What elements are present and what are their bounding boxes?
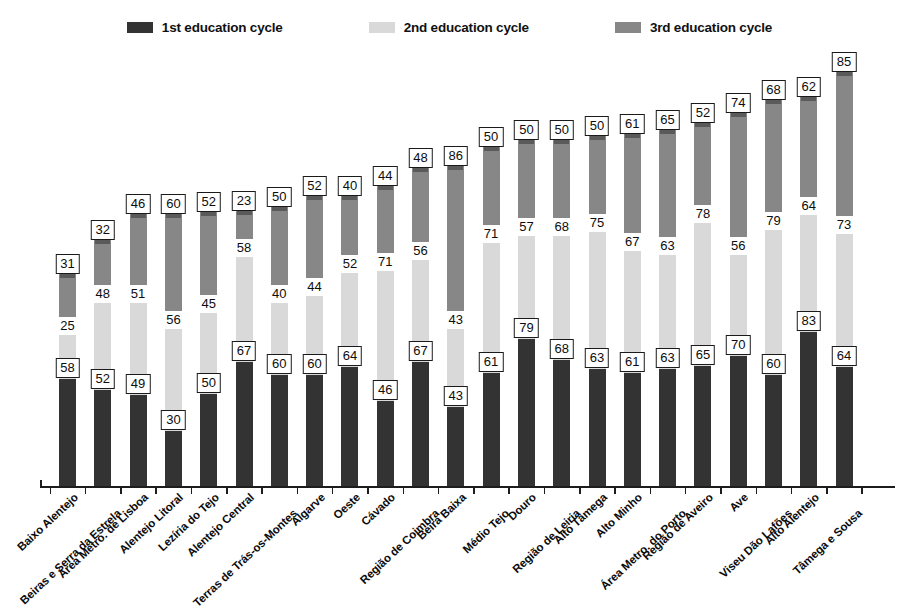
value-label-cycle2: 67 <box>621 233 643 251</box>
x-axis-tick <box>508 488 510 494</box>
bar-group: 495146 <box>130 214 147 487</box>
bar-top-cap <box>60 274 75 278</box>
value-label-cycle2: 44 <box>303 278 325 296</box>
value-label-cycle1: 67 <box>408 341 432 361</box>
bar-group: 504552 <box>200 212 217 487</box>
value-label-cycle1: 63 <box>655 348 679 368</box>
bar-top-cap <box>554 140 569 144</box>
bar-segment-cycle3 <box>730 113 747 251</box>
value-label-cycle3: 52 <box>302 176 326 196</box>
bar-top-cap <box>131 214 146 218</box>
bar-top-cap <box>766 100 781 104</box>
x-axis-tick <box>579 488 581 494</box>
value-label-cycle2: 71 <box>480 225 502 243</box>
bar-segment-cycle1 <box>341 367 358 487</box>
value-label-cycle3: 50 <box>585 116 609 136</box>
x-axis-label: Alentejo Litoral <box>117 491 185 556</box>
bar-group: 686850 <box>553 140 570 487</box>
value-label-cycle3: 85 <box>832 52 856 72</box>
bar-segment-cycle1 <box>800 332 817 487</box>
bar-segment-cycle1 <box>447 407 464 487</box>
value-label-cycle1: 68 <box>549 339 573 359</box>
x-axis-label: Oeste <box>331 491 362 521</box>
x-axis-tick <box>826 488 828 494</box>
value-label-cycle1: 60 <box>302 354 326 374</box>
bar-segment-cycle3 <box>800 97 817 213</box>
value-label-cycle2: 73 <box>833 216 855 234</box>
x-axis-tick <box>191 488 193 494</box>
bar-group: 604452 <box>306 196 323 487</box>
value-label-cycle1: 52 <box>91 369 115 389</box>
bar-top-cap <box>837 72 852 76</box>
value-label-cycle3: 23 <box>232 191 256 211</box>
value-label-cycle1: 61 <box>620 352 644 372</box>
bar-top-cap <box>625 134 640 138</box>
value-label-cycle1: 65 <box>691 345 715 365</box>
value-label-cycle3: 86 <box>444 146 468 166</box>
value-label-cycle3: 48 <box>408 148 432 168</box>
x-axis-tick <box>756 488 758 494</box>
bar-top-cap <box>201 212 216 216</box>
bar-group: 675823 <box>236 211 253 487</box>
value-label-cycle1: 49 <box>126 374 150 394</box>
value-label-cycle3: 50 <box>549 120 573 140</box>
bar-top-cap <box>448 166 463 170</box>
bar-top-cap <box>378 186 393 190</box>
value-label-cycle1: 58 <box>55 358 79 378</box>
bar-segment-cycle3 <box>165 214 182 326</box>
bar-segment-cycle1 <box>518 339 535 487</box>
x-axis-tick <box>403 488 405 494</box>
value-label-cycle2: 52 <box>339 255 361 273</box>
x-axis-category-labels: Baixo AlentejoBeiras e Serra da EstrelaÁ… <box>0 487 899 607</box>
value-label-cycle1: 64 <box>832 346 856 366</box>
value-label-cycle3: 74 <box>726 93 750 113</box>
bar-group: 836462 <box>800 97 817 487</box>
value-label-cycle1: 43 <box>444 386 468 406</box>
value-label-cycle3: 50 <box>479 127 503 147</box>
bar-top-cap <box>695 123 710 127</box>
value-label-cycle1: 60 <box>267 354 291 374</box>
bar-segment-cycle1 <box>165 431 182 487</box>
value-label-cycle2: 56 <box>162 311 184 329</box>
bar-top-cap <box>731 113 746 117</box>
x-axis-tick <box>297 488 299 494</box>
value-label-cycle2: 78 <box>692 205 714 223</box>
bar-segment-cycle2 <box>765 227 782 375</box>
bar-group: 705674 <box>730 113 747 487</box>
value-label-cycle2: 25 <box>56 317 78 335</box>
bar-top-cap <box>413 168 428 172</box>
value-label-cycle1: 61 <box>479 352 503 372</box>
bar-segment-cycle1 <box>412 362 429 487</box>
value-label-cycle2: 45 <box>197 295 219 313</box>
bar-group: 604050 <box>271 207 288 487</box>
x-axis-tick <box>50 488 52 494</box>
x-axis-tick <box>438 488 440 494</box>
bar-group: 647385 <box>836 72 853 487</box>
bar-segment-cycle3 <box>659 130 676 251</box>
value-label-cycle2: 64 <box>798 197 820 215</box>
x-axis-tick <box>791 488 793 494</box>
bar-segment-cycle1 <box>271 375 288 487</box>
value-label-cycle3: 50 <box>267 187 291 207</box>
bar-group: 636365 <box>659 130 676 487</box>
x-axis-label: Região de Aveiro <box>640 491 715 562</box>
bar-segment-cycle1 <box>589 369 606 487</box>
bar-group: 582531 <box>59 274 76 487</box>
value-label-cycle2: 68 <box>550 218 572 236</box>
bar-segment-cycle1 <box>94 390 111 487</box>
x-axis-tick <box>155 488 157 494</box>
x-axis-label: Baixo Alentejo <box>14 491 79 553</box>
value-label-cycle2: 40 <box>268 285 290 303</box>
x-axis-label: Terras de Trás-os-Montes <box>191 507 299 607</box>
bar-group: 434386 <box>447 166 464 487</box>
value-label-cycle2: 75 <box>586 214 608 232</box>
x-axis-tick <box>85 488 87 494</box>
value-label-cycle2: 79 <box>762 212 784 230</box>
value-label-cycle2: 71 <box>374 253 396 271</box>
value-label-cycle3: 32 <box>91 220 115 240</box>
value-label-cycle2: 57 <box>515 218 537 236</box>
value-label-cycle1: 63 <box>585 348 609 368</box>
value-label-cycle3: 61 <box>620 114 644 134</box>
value-label-cycle1: 83 <box>797 311 821 331</box>
bar-segment-cycle1 <box>730 356 747 487</box>
